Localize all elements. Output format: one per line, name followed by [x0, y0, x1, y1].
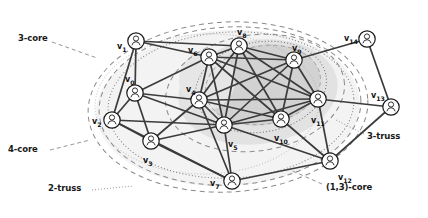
node-label-v5: v5 — [228, 140, 238, 151]
figure-canvas: 3-core 4-core 2-truss 3-truss (1,3)-core… — [0, 0, 428, 218]
node-label-v8: v8 — [237, 28, 247, 39]
node-v10[interactable] — [273, 111, 289, 127]
node-v3[interactable] — [143, 133, 159, 149]
node-v0[interactable] — [127, 85, 143, 101]
node-label-v2: v2 — [92, 117, 102, 128]
node-label-v4: v4 — [186, 85, 196, 96]
region-label-4-core: 4-core — [8, 144, 38, 154]
node-label-v3: v3 — [143, 156, 153, 167]
node-v2[interactable] — [104, 112, 120, 128]
node-v5[interactable] — [216, 117, 232, 133]
node-v6[interactable] — [201, 49, 217, 65]
node-v12[interactable] — [322, 153, 338, 169]
region-label-2-truss: 2-truss — [48, 183, 81, 193]
node-v13[interactable] — [383, 99, 399, 115]
leader-3-core — [52, 42, 97, 58]
node-label-v9: v9 — [292, 44, 302, 55]
region-label-3-core: 3-core — [18, 33, 48, 43]
node-v1[interactable] — [128, 33, 144, 49]
node-label-v12: v12 — [338, 173, 352, 184]
node-v8[interactable] — [231, 38, 247, 54]
node-label-v7: v7 — [210, 179, 220, 190]
node-label-v6: v6 — [188, 46, 198, 57]
leader-2-truss — [92, 186, 133, 190]
leader-4-core — [50, 140, 90, 150]
node-label-v13: v13 — [371, 91, 385, 102]
node-label-v1: v1 — [117, 42, 127, 53]
node-v7[interactable] — [224, 173, 240, 189]
node-v14[interactable] — [359, 31, 375, 47]
node-label-v0: v0 — [125, 75, 135, 86]
node-label-v11: v11 — [311, 116, 325, 127]
region-label-3-truss: 3-truss — [367, 131, 400, 141]
node-label-v10: v10 — [274, 134, 288, 145]
leader-one-three-core — [288, 169, 322, 184]
node-label-v14: v14 — [344, 34, 358, 45]
node-v11[interactable] — [310, 91, 326, 107]
